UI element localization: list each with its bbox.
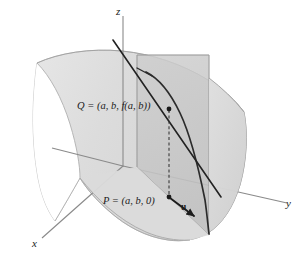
- z-axis-label: z: [116, 6, 120, 17]
- diagram-canvas: [0, 0, 298, 258]
- point-P-label: P = (a, b, 0): [103, 196, 155, 207]
- x-axis-label: x: [32, 238, 37, 249]
- point-Q-label: Q = (a, b, f(a, b)): [77, 101, 151, 112]
- surface-front-sheet: [208, 78, 246, 233]
- unit-vector-u-label: u: [181, 203, 186, 213]
- figure-root: z y x Q = (a, b, f(a, b)) P = (a, b, 0) …: [0, 0, 298, 258]
- y-axis-label: y: [286, 198, 291, 209]
- point-Q-marker: [167, 107, 172, 112]
